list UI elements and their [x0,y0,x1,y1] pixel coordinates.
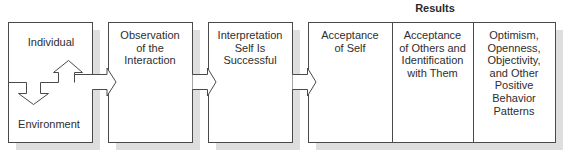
label-optimism: Optimism, Openness, Objectivity, and Oth… [473,29,555,117]
label-interpretation: Interpretation Self Is Successful [208,29,292,67]
label-acceptance-self: Acceptance of Self [308,29,392,54]
results-header: Results [400,2,470,14]
label-individual: Individual [10,36,92,49]
label-observation: Observation of the Interaction [108,29,192,67]
label-acceptance-others: Acceptance of Others and Identification … [392,29,473,79]
label-environment: Environment [8,118,90,131]
